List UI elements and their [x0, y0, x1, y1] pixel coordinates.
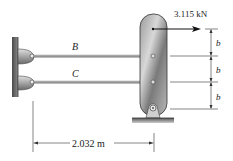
spacing-label-2: b [216, 65, 221, 75]
pin-support [132, 104, 174, 124]
rod-c [34, 81, 154, 83]
wall-bracket-b [18, 49, 34, 64]
force-label: 3.115 kN [174, 9, 208, 19]
rod-b [34, 55, 154, 57]
wall-bracket-c [18, 76, 34, 90]
spacing-label-3: b [216, 92, 221, 102]
spacing-dimensions [170, 29, 218, 109]
wall-support [12, 37, 18, 97]
rod-c-label: C [72, 68, 79, 79]
spacing-label-1: b [216, 38, 221, 48]
horizontal-dimension-label: 2.032 m [72, 138, 105, 149]
diagram: B C 3.115 kN b b b [0, 0, 233, 161]
rod-b-label: B [72, 41, 78, 52]
